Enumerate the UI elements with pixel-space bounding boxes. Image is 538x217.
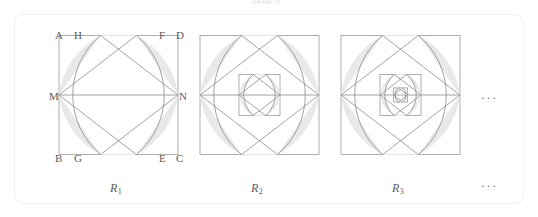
row-ellipsis: ··· <box>481 92 498 104</box>
vertex-label-b: B <box>55 153 62 164</box>
figures-group <box>59 36 460 155</box>
figure-caption-r3: R3 <box>392 182 404 196</box>
caption-subscript: 3 <box>400 187 404 196</box>
vertex-label-m: M <box>49 91 59 102</box>
caption-ellipsis: ··· <box>481 180 498 192</box>
caption-subscript: 1 <box>118 187 122 196</box>
caption-base: R <box>392 181 399 195</box>
caption-base: R <box>110 181 117 195</box>
vertex-label-a: A <box>55 30 63 41</box>
figure-R1 <box>59 36 178 155</box>
vertex-label-g: G <box>74 153 82 164</box>
figure-level-1 <box>59 36 178 155</box>
vertex-label-d: D <box>176 30 184 41</box>
vertex-label-f: F <box>159 30 165 41</box>
vertex-label-n: N <box>179 91 187 102</box>
vertex-label-e: E <box>159 153 166 164</box>
figure-caption-r2: R2 <box>251 182 263 196</box>
figure-R2 <box>200 36 319 155</box>
caption-base: R <box>251 181 258 195</box>
caption-subscript: 2 <box>259 187 263 196</box>
vertex-label-h: H <box>74 30 82 41</box>
vertex-label-c: C <box>176 153 183 164</box>
figure-R3 <box>341 36 460 155</box>
figure-caption-r1: R1 <box>110 182 122 196</box>
figure-root: 及图② AHFDMNBGECR1R2R3······ <box>0 0 538 217</box>
